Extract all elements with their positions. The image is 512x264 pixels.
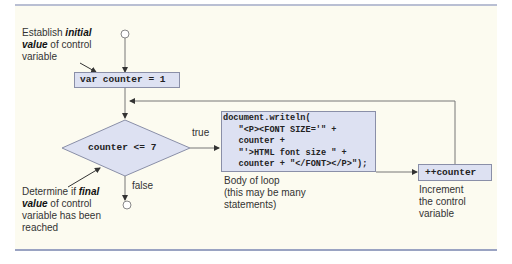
end-node-icon bbox=[123, 201, 131, 209]
init-statement-box: var counter = 1 bbox=[74, 72, 180, 88]
increment-box: ++counter bbox=[418, 164, 492, 181]
increment-statement: ++counter bbox=[419, 165, 491, 178]
body-annotation: Body of loop (this may be many statement… bbox=[224, 175, 306, 211]
true-label: true bbox=[192, 127, 209, 139]
init-statement: var counter = 1 bbox=[75, 73, 179, 85]
increment-annotation: Increment the control variable bbox=[419, 184, 466, 220]
init-annotation: Establish initial value of control varia… bbox=[22, 27, 92, 63]
false-label: false bbox=[132, 180, 153, 192]
loop-body-code: document.writeln( "<P><FONT SIZE='" + co… bbox=[223, 113, 367, 171]
condition-annotation: Determine if final value of control vari… bbox=[22, 186, 101, 234]
start-node-icon bbox=[121, 30, 129, 38]
condition-text: counter <= 7 bbox=[88, 142, 156, 153]
